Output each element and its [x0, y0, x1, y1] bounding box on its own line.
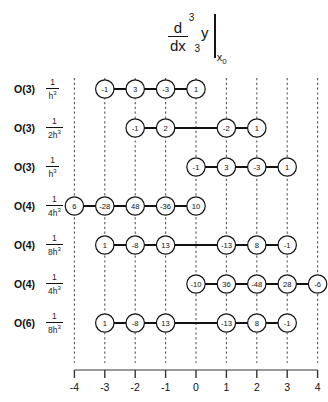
- stencil-row: -1036-4828-6: [187, 275, 327, 293]
- stencil-node-value: 3: [133, 85, 137, 94]
- stencil-node-value: 1: [194, 85, 198, 94]
- stencil-node-value: -1: [132, 124, 139, 133]
- stencil-node-value: -28: [99, 202, 110, 211]
- stencil-node-value: 3: [224, 163, 228, 172]
- stencil-node-value: -8: [132, 241, 139, 250]
- x-axis-tick-label: 1: [223, 381, 229, 393]
- stencil-node-value: -3: [253, 163, 260, 172]
- x-axis-tick-label: -4: [70, 381, 79, 393]
- x-axis-tick-label: 2: [254, 381, 260, 393]
- stencil-node-value: 2: [163, 124, 167, 133]
- stencil-plot: -13-31-12-21-13-316-2848-36101-813-138-1…: [0, 0, 328, 402]
- stencil-node-value: 1: [103, 319, 107, 328]
- stencil-node-value: -36: [160, 202, 171, 211]
- stencil-node-value: -6: [314, 280, 321, 289]
- stencil-node-value: -13: [221, 241, 232, 250]
- x-axis-tick-label: -1: [161, 381, 170, 393]
- x-axis-tick-label: 0: [193, 381, 199, 393]
- stencil-node-value: -13: [221, 319, 232, 328]
- x-axis-tick-label: -3: [100, 381, 109, 393]
- stencil-node-value: -3: [162, 85, 169, 94]
- stencil-node-value: 6: [72, 202, 76, 211]
- stencil-node-value: -8: [132, 319, 139, 328]
- stencil-node-value: 36: [222, 280, 230, 289]
- stencil-node-value: -2: [223, 124, 230, 133]
- stencil-node-value: -1: [193, 163, 200, 172]
- stencil-node-value: 1: [103, 241, 107, 250]
- stencil-node-value: 10: [192, 202, 200, 211]
- x-axis-group: -4-3-2-101234: [70, 370, 321, 393]
- stencil-row: 6-2848-3610: [65, 197, 205, 215]
- stencil-node-value: 1: [255, 124, 259, 133]
- stencil-node-value: 8: [255, 319, 259, 328]
- stencil-node-value: 48: [131, 202, 139, 211]
- stencil-node-value: -10: [191, 280, 202, 289]
- stencil-node-value: 8: [255, 241, 259, 250]
- stencil-node-value: 28: [283, 280, 291, 289]
- stencil-node-value: -48: [251, 280, 262, 289]
- stencil-row: -13-31: [96, 80, 206, 98]
- x-axis-tick-label: 3: [284, 381, 290, 393]
- stencil-node-value: 13: [161, 319, 169, 328]
- stencil-node-value: -1: [284, 241, 291, 250]
- stencil-row: -13-31: [187, 158, 297, 176]
- stencil-node-value: 13: [161, 241, 169, 250]
- x-axis-tick-label: 4: [315, 381, 321, 393]
- stencil-node-value: 1: [285, 163, 289, 172]
- x-axis-tick-label: -2: [131, 381, 140, 393]
- stencil-node-value: -1: [101, 85, 108, 94]
- stencil-node-value: -1: [284, 319, 291, 328]
